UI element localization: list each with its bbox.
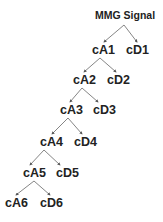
node-ca4: cA4 <box>40 136 63 149</box>
edge-root-ca1 <box>104 25 124 42</box>
node-cd5: cD5 <box>56 167 79 180</box>
node-ca3: cA3 <box>60 104 83 117</box>
edge-ca2-cd3 <box>82 88 98 102</box>
node-cd4: cD4 <box>74 136 97 149</box>
edge-ca5-cd6 <box>34 181 50 195</box>
edge-ca1-cd2 <box>100 58 116 72</box>
node-cd1: cD1 <box>126 44 149 57</box>
edge-ca3-cd4 <box>68 118 82 134</box>
node-ca6: cA6 <box>5 197 28 210</box>
edge-ca2-ca3 <box>70 88 82 102</box>
node-ca1: cA1 <box>92 44 115 57</box>
node-cd3: cD3 <box>93 104 116 117</box>
node-ca2: cA2 <box>73 74 96 87</box>
node-ca5: cA5 <box>23 167 46 180</box>
edge-ca4-ca5 <box>30 150 44 165</box>
edge-ca1-ca2 <box>84 58 100 72</box>
node-cd2: cD2 <box>107 74 130 87</box>
node-cd6: cD6 <box>40 197 63 210</box>
edge-ca5-ca6 <box>16 181 34 195</box>
edge-root-cd1 <box>124 25 137 42</box>
root-node-mmg-signal: MMG Signal <box>95 10 155 21</box>
edge-ca3-ca4 <box>52 118 68 134</box>
edge-ca4-cd5 <box>44 150 60 165</box>
